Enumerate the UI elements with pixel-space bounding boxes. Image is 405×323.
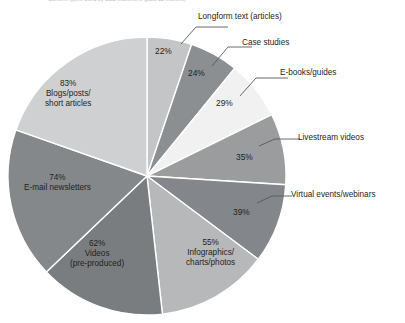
slice-callout-label: Case studies [242, 38, 289, 48]
slice-callout-label: Virtual events/webinars [291, 190, 376, 200]
slice-callout-label: E-books/guides [280, 68, 336, 78]
slice-percent-label: 62% [70, 239, 124, 249]
slice-callout-label: Longform text (articles) [198, 12, 282, 22]
slice-percent-label: 74% [24, 173, 91, 183]
slice-name-label: Blogs/posts/ [45, 89, 91, 99]
slice-percent-label: 29% [216, 99, 233, 109]
slice-name-label: (pre-produced) [70, 259, 124, 269]
slice-inside-label: 62%Videos(pre-produced) [70, 239, 124, 268]
slice-name-label: Infographics/ [186, 248, 235, 258]
slice-percent-label: 55% [186, 238, 235, 248]
slice-callout-label: Livestream videos [298, 133, 364, 143]
slice-percent-label: 24% [188, 69, 205, 79]
slice-name-label: charts/photos [186, 258, 235, 268]
slice-percent-label: 83% [45, 79, 91, 89]
slice-name-label: E-mail newsletters [24, 183, 91, 193]
slice-inside-label: 83%Blogs/posts/short articles [45, 79, 91, 108]
chart-canvas: Content types used by B2B marketers (pas… [0, 0, 405, 323]
slice-inside-label: 55%Infographics/charts/photos [186, 238, 235, 267]
slice-percent-label: 35% [236, 153, 253, 163]
slice-name-label: Videos [70, 249, 124, 259]
slice-inside-label: 74%E-mail newsletters [24, 173, 91, 193]
slice-name-label: short articles [45, 99, 91, 109]
slice-percent-label: 39% [233, 208, 250, 218]
pie-chart-svg [0, 0, 405, 323]
leader-line [181, 27, 228, 44]
slice-percent-label: 22% [155, 47, 172, 57]
